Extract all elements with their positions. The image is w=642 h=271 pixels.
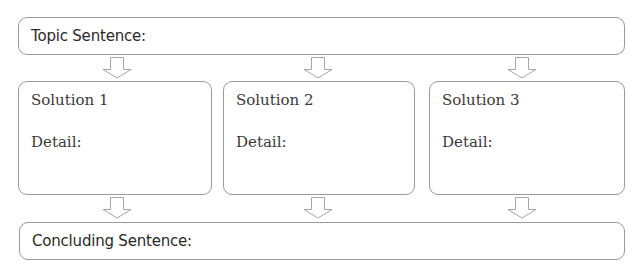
down-arrow-icon	[100, 197, 134, 219]
solution-box-2[interactable]: Solution 2 Detail:	[223, 81, 415, 195]
solution-detail-label: Detail:	[236, 133, 287, 151]
solution-detail-label: Detail:	[442, 133, 493, 151]
concluding-sentence-label: Concluding Sentence:	[32, 232, 192, 250]
down-arrow-icon	[301, 197, 335, 219]
solution-box-3[interactable]: Solution 3 Detail:	[429, 81, 625, 195]
solution-box-1[interactable]: Solution 1 Detail:	[18, 81, 212, 195]
down-arrow-icon	[505, 57, 539, 79]
concluding-sentence-box[interactable]: Concluding Sentence:	[19, 222, 625, 260]
solution-detail-label: Detail:	[31, 133, 82, 151]
down-arrow-icon	[100, 57, 134, 79]
solution-title: Solution 1	[31, 91, 109, 109]
topic-sentence-box[interactable]: Topic Sentence:	[18, 17, 625, 55]
topic-sentence-label: Topic Sentence:	[31, 27, 146, 45]
down-arrow-icon	[301, 57, 335, 79]
down-arrow-icon	[505, 197, 539, 219]
solution-title: Solution 3	[442, 91, 520, 109]
solution-title: Solution 2	[236, 91, 314, 109]
